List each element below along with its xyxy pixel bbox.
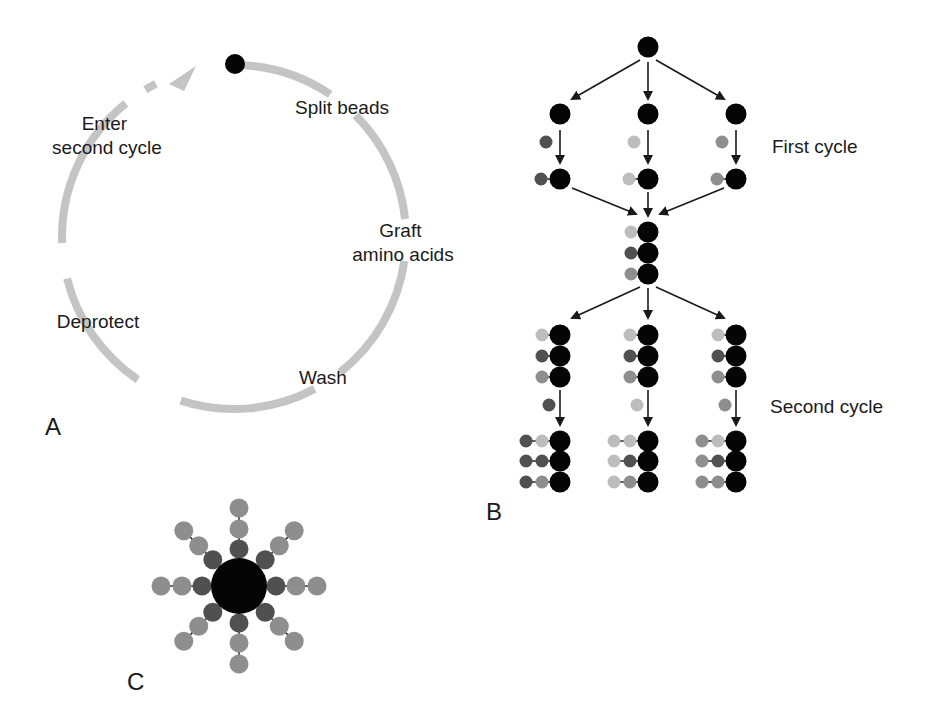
amino-acid-dark bbox=[624, 350, 637, 363]
resin-bead bbox=[550, 104, 571, 125]
amino-acid-light bbox=[628, 136, 641, 149]
panel-label-c: C bbox=[127, 668, 144, 695]
step-deprotect: Deprotect bbox=[57, 311, 140, 332]
chain-residue-medium bbox=[152, 577, 171, 596]
panel-a-cycle-diagram: Split beads Graft amino acids Wash Depro… bbox=[45, 54, 454, 440]
resin-bead bbox=[726, 431, 747, 452]
resin-bead bbox=[638, 431, 659, 452]
step-enter-second-cycle: Enter second cycle bbox=[52, 113, 162, 158]
arrow-icon bbox=[572, 60, 640, 99]
amino-acid-light bbox=[631, 399, 644, 412]
resin-bead bbox=[726, 472, 747, 493]
resin-bead bbox=[638, 325, 659, 346]
cycle-arc-segment bbox=[340, 261, 404, 373]
resin-bead bbox=[550, 431, 571, 452]
amino-acid-light bbox=[624, 329, 637, 342]
amino-acid-light bbox=[608, 476, 621, 489]
chain-residue-medium bbox=[230, 634, 249, 653]
amino-acid-medium bbox=[624, 476, 637, 489]
resin-bead bbox=[638, 169, 659, 190]
cycle-arc-segment bbox=[181, 389, 315, 409]
chain-residue-medium bbox=[287, 577, 306, 596]
chain-residue-dark bbox=[230, 540, 249, 559]
chain-residue-medium bbox=[285, 632, 304, 651]
amino-acid-light bbox=[712, 435, 725, 448]
resin-bead bbox=[550, 169, 571, 190]
resin-bead bbox=[638, 264, 659, 285]
arrow-icon bbox=[656, 287, 724, 318]
resin-bead bbox=[638, 367, 659, 388]
core-bead bbox=[211, 558, 267, 614]
cycle-arc-segment bbox=[145, 84, 156, 90]
bead-tree bbox=[520, 37, 747, 493]
arrow-icon bbox=[660, 188, 724, 214]
amino-acid-medium bbox=[711, 173, 724, 186]
amino-acid-dark bbox=[712, 455, 725, 468]
chain-residue-medium bbox=[270, 536, 289, 555]
resin-bead bbox=[638, 472, 659, 493]
amino-acid-dark bbox=[536, 455, 549, 468]
chain-residue-medium bbox=[285, 521, 304, 540]
panel-label-a: A bbox=[45, 413, 61, 440]
amino-acid-medium bbox=[716, 136, 729, 149]
chain-residue-medium bbox=[230, 499, 249, 518]
amino-acid-light bbox=[623, 173, 636, 186]
panel-b-split-pool-tree: First cycle Second cycle B bbox=[486, 37, 883, 526]
amino-acid-dark bbox=[543, 399, 556, 412]
chain-residue-medium bbox=[189, 536, 208, 555]
chain-residue-medium bbox=[230, 520, 249, 539]
resin-bead bbox=[726, 104, 747, 125]
chain-residue-dark bbox=[267, 577, 286, 596]
amino-acid-dark bbox=[540, 136, 553, 149]
amino-acid-medium bbox=[712, 476, 725, 489]
amino-acid-medium bbox=[696, 435, 709, 448]
amino-acid-medium bbox=[536, 476, 549, 489]
resin-bead bbox=[550, 367, 571, 388]
resin-bead bbox=[550, 451, 571, 472]
resin-bead bbox=[726, 367, 747, 388]
chain-residue-medium bbox=[308, 577, 327, 596]
amino-acid-medium bbox=[536, 371, 549, 384]
amino-acid-light bbox=[608, 435, 621, 448]
amino-acid-medium bbox=[624, 371, 637, 384]
resin-bead bbox=[726, 169, 747, 190]
amino-acid-dark bbox=[625, 247, 638, 260]
resin-bead bbox=[550, 325, 571, 346]
resin-bead bbox=[638, 222, 659, 243]
resin-bead bbox=[638, 243, 659, 264]
amino-acid-medium bbox=[625, 268, 638, 281]
chain-residue-medium bbox=[189, 617, 208, 636]
chain-residue-medium bbox=[270, 617, 289, 636]
cycle-arrow-head-icon bbox=[169, 66, 196, 91]
amino-acid-light bbox=[625, 226, 638, 239]
resin-bead bbox=[550, 472, 571, 493]
resin-bead bbox=[726, 325, 747, 346]
panel-label-b: B bbox=[486, 498, 502, 525]
step-split-beads: Split beads bbox=[295, 97, 389, 118]
chain-residue-medium bbox=[174, 632, 193, 651]
arrow-icon bbox=[656, 60, 724, 99]
chain-residue-dark bbox=[230, 614, 249, 633]
first-cycle-label: First cycle bbox=[772, 136, 858, 157]
amino-acid-dark bbox=[536, 350, 549, 363]
resin-bead bbox=[638, 37, 659, 58]
cycle-arc-segment bbox=[356, 115, 406, 219]
amino-acid-dark bbox=[712, 350, 725, 363]
amino-acid-light bbox=[608, 455, 621, 468]
amino-acid-dark bbox=[520, 435, 533, 448]
resin-bead bbox=[638, 104, 659, 125]
combinatorial-synthesis-figure: Split beads Graft amino acids Wash Depro… bbox=[0, 0, 932, 723]
step-wash: Wash bbox=[299, 367, 347, 388]
resin-bead bbox=[726, 346, 747, 367]
step-graft-amino-acids: Graft amino acids bbox=[352, 220, 453, 265]
arrow-icon bbox=[572, 287, 640, 318]
amino-acid-light bbox=[536, 435, 549, 448]
resin-bead bbox=[550, 346, 571, 367]
amino-acid-medium bbox=[712, 371, 725, 384]
resin-bead bbox=[638, 346, 659, 367]
resin-bead bbox=[638, 451, 659, 472]
dendrimer-star bbox=[152, 499, 327, 674]
amino-acid-light bbox=[536, 329, 549, 342]
chain-residue-medium bbox=[173, 577, 192, 596]
amino-acid-dark bbox=[520, 455, 533, 468]
